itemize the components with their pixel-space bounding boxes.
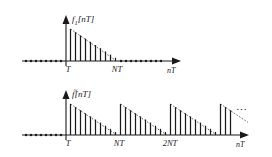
top-xtick-label-T: T	[66, 64, 72, 74]
top-panel-svg: f1[nT] T NT nT	[0, 0, 272, 78]
bottom-xtick-label-NT: NT	[113, 138, 126, 148]
top-y-axis-arrowhead	[63, 15, 70, 24]
bottom-envelope-dashed-1	[71, 104, 117, 135]
bottom-y-axis-arrowhead	[63, 90, 70, 99]
bottom-xtick-label-T: T	[66, 138, 72, 148]
top-signal-label: f1[nT]	[72, 14, 95, 26]
bottom-stem-group-period-3	[171, 104, 216, 135]
continuation-ellipsis: …	[236, 100, 248, 112]
top-x-axis-label: nT	[167, 66, 176, 75]
bottom-xtick-label-2NT: 2NT	[163, 138, 179, 148]
bottom-stem-group-period-2	[121, 104, 166, 135]
bottom-stem-group-period-4	[221, 104, 231, 135]
signal-figure: f1[nT] T NT nT	[0, 0, 272, 157]
top-stem-group	[71, 29, 116, 61]
bottom-panel-chart: f[nT] ~ T NT 2NT … nT	[0, 78, 272, 157]
bottom-stem-group-period-1	[71, 104, 116, 135]
bottom-x-axis-label: nT	[236, 140, 245, 149]
bottom-envelope-dashed-3	[171, 104, 217, 135]
top-envelope-dashed	[71, 29, 117, 61]
bottom-envelope-dashed-2	[121, 104, 167, 135]
top-xtick-label-NT: NT	[111, 64, 124, 74]
bottom-panel-svg: f[nT] ~ T NT 2NT … nT	[0, 78, 272, 157]
top-panel-chart: f1[nT] T NT nT	[0, 0, 272, 78]
bottom-signal-label-tilde: ~	[74, 86, 78, 94]
top-x-axis-arrowhead	[172, 58, 181, 65]
bottom-envelope-group	[71, 104, 249, 135]
top-zero-samples-right	[120, 60, 162, 62]
bottom-x-axis-arrowhead	[240, 132, 249, 139]
